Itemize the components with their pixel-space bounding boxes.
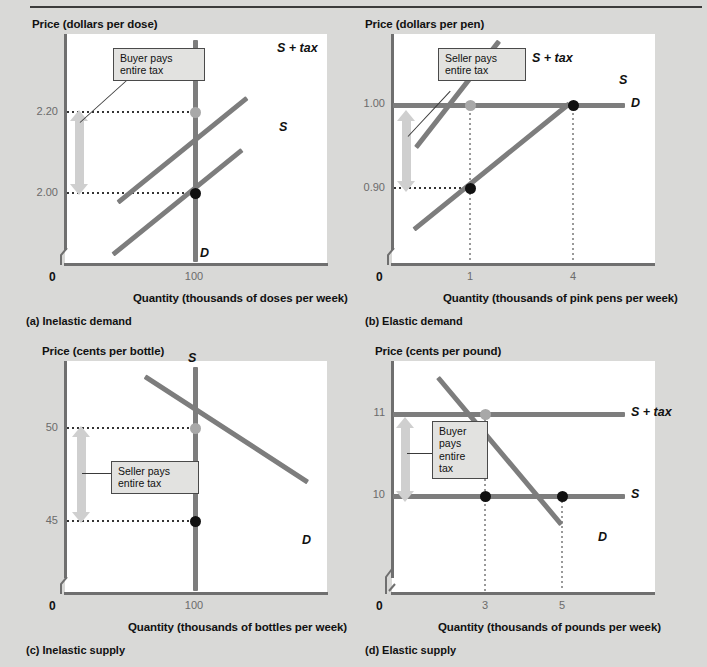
panel-a-tax-arrow-shaft — [75, 120, 84, 185]
panel-d-supply-plus-tax-curve — [393, 412, 625, 417]
panel-d-guide-q5 — [561, 501, 563, 591]
panel-d-y-axis-title: Price (cents per pound) — [375, 345, 501, 357]
panel-c-callout: Seller pays entire tax — [111, 461, 199, 494]
panel-c-x-tick-100: 100 — [173, 599, 215, 611]
panel-a-x-tick-100: 100 — [173, 270, 215, 282]
panel-d-y-axis — [391, 361, 394, 578]
panel-a-tax-arrow — [70, 110, 88, 195]
panel-b-axis-break — [385, 246, 401, 266]
panel-c-supply-label: S — [188, 351, 196, 365]
panel-b: Price (dollars per pen) D S + tax S — [355, 0, 707, 333]
panel-b-x-axis — [391, 263, 655, 266]
panel-c-y-axis — [64, 361, 67, 578]
panel-d-y-tick-11: 11 — [347, 406, 385, 418]
panel-a-y-axis — [64, 34, 67, 250]
panel-a-y-axis-title: Price (dollars per dose) — [32, 18, 157, 30]
panel-c-origin-label: 0 — [49, 599, 56, 613]
panel-c-equilibrium-dot — [190, 423, 201, 434]
panel-b-y-axis — [391, 34, 394, 250]
panel-a-origin-label: 0 — [49, 270, 56, 284]
panel-a-after-tax-equilibrium-dot — [190, 107, 201, 118]
panel-d-supply-curve — [393, 494, 625, 499]
panel-c-y-tick-50: 50 — [20, 421, 58, 433]
panel-d-before-tax-equilibrium-dot — [557, 491, 568, 502]
panel-c: Price (cents per bottle) S D Seller pays — [0, 333, 355, 667]
panel-a-callout: Buyer pays entire tax — [113, 48, 205, 81]
panel-b-y-tick-100: 1.00 — [347, 97, 385, 109]
panel-c-tax-arrow-head-down — [72, 512, 90, 523]
panel-c-x-axis — [64, 592, 328, 595]
panel-c-seller-price-dot — [190, 516, 201, 527]
panel-b-x-tick-1: 1 — [449, 270, 491, 282]
panel-b-y-tick-090: 0.90 — [347, 181, 385, 193]
panel-a-x-axis — [64, 263, 328, 266]
panel-b-guide-q4 — [572, 108, 574, 262]
panel-c-tax-arrow — [72, 426, 90, 523]
panel-d-supply-plus-tax-label: S + tax — [631, 405, 672, 419]
panel-a: Price (dollars per dose) S + tax S D — [0, 0, 355, 333]
panel-d-supply-label: S — [631, 487, 639, 501]
panel-d-tax-arrow-shaft — [401, 427, 410, 492]
panel-b-before-tax-equilibrium-dot — [568, 100, 579, 111]
panel-b-tax-arrow-head-down — [397, 181, 415, 192]
panel-b-after-tax-equilibrium-dot — [465, 100, 476, 111]
panel-c-axis-break — [58, 575, 74, 595]
panel-d-after-tax-equilibrium-dot — [480, 409, 491, 420]
panel-a-before-tax-equilibrium-dot — [190, 188, 201, 199]
panel-c-y-tick-45: 45 — [20, 514, 58, 526]
figure-page: Price (dollars per dose) S + tax S D — [0, 0, 707, 667]
panel-c-callout-leader — [82, 473, 112, 474]
panel-b-demand-curve — [393, 103, 625, 108]
panel-b-tax-arrow — [397, 110, 415, 192]
panel-b-seller-price-dot — [465, 183, 476, 194]
panel-c-tax-arrow-shaft — [77, 436, 86, 513]
panel-d-callout: Buyer pays entire tax — [432, 421, 488, 479]
panel-a-supply-label: S — [279, 120, 287, 134]
panel-d-origin-label: 0 — [376, 599, 383, 613]
panel-d-caption: (d) Elastic supply — [365, 644, 456, 656]
panel-a-y-tick-200: 2.00 — [20, 186, 58, 198]
panel-a-caption: (a) Inelastic demand — [26, 315, 132, 327]
panel-a-axis-break — [58, 246, 74, 266]
panel-d-y-tick-10: 10 — [347, 488, 385, 500]
panel-b-callout: Seller pays entire tax — [438, 48, 526, 81]
panel-d-callout-leader — [407, 453, 433, 454]
panel-b-x-tick-4: 4 — [552, 270, 594, 282]
panel-a-demand-label: D — [200, 246, 209, 260]
panel-d-x-axis — [391, 592, 655, 595]
panel-d: Price (cents per pound) S + tax S D — [355, 333, 707, 667]
panel-c-caption: (c) Inelastic supply — [26, 644, 125, 656]
panel-d-x-tick-3: 3 — [464, 599, 506, 611]
panel-a-y-tick-220: 2.20 — [20, 105, 58, 117]
panel-b-demand-label: D — [631, 96, 640, 110]
panel-b-supply-label: S — [619, 73, 627, 87]
panel-d-x-axis-title: Quantity (thousands of pounds per week) — [438, 621, 661, 633]
panel-a-x-axis-title: Quantity (thousands of doses per week) — [133, 292, 348, 304]
panel-d-axis-break — [382, 567, 402, 595]
panel-b-y-axis-title: Price (dollars per pen) — [365, 18, 484, 30]
panel-d-tax-arrow — [396, 417, 414, 502]
panel-c-x-axis-title: Quantity (thousands of bottles per week) — [128, 621, 347, 633]
panel-b-origin-label: 0 — [376, 270, 383, 284]
panel-a-supply-plus-tax-label: S + tax — [277, 41, 318, 55]
panel-d-supply-quantity-dot — [480, 491, 491, 502]
panel-d-x-tick-5: 5 — [541, 599, 583, 611]
panel-b-caption: (b) Elastic demand — [365, 315, 463, 327]
panel-d-tax-arrow-head-down — [396, 491, 414, 502]
panel-b-x-axis-title: Quantity (thousands of pink pens per wee… — [443, 292, 678, 304]
panel-a-tax-arrow-head-down — [70, 184, 88, 195]
panel-b-supply-plus-tax-label: S + tax — [532, 51, 573, 65]
panel-b-tax-arrow-shaft — [402, 120, 411, 182]
panel-d-demand-label: D — [598, 530, 607, 544]
panel-c-demand-label: D — [302, 533, 311, 547]
panel-c-y-axis-title: Price (cents per bottle) — [42, 345, 164, 357]
